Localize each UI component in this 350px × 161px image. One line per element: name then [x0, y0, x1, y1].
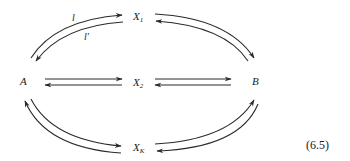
arrow-b-to-x1	[156, 21, 248, 61]
equation-number: (6.5)	[306, 139, 329, 151]
arrow-b-to-xk	[157, 104, 258, 151]
node-a: A	[20, 76, 27, 87]
node-x2: X2	[133, 77, 143, 90]
arrow-xk-to-b	[155, 100, 254, 144]
edge-label-l-prime: l′	[84, 32, 89, 42]
arrow-x1-to-a	[36, 22, 123, 61]
edge-label-l: l	[72, 13, 75, 23]
node-b: B	[252, 76, 259, 87]
arrow-x1-to-b	[155, 14, 254, 58]
arrow-xk-to-a	[25, 101, 121, 153]
reaction-network-diagram: A B X1 X2 XK l l′ (6.5)	[0, 0, 350, 161]
arrows-layer	[0, 0, 350, 161]
node-x1: X1	[133, 11, 143, 24]
node-xk: XK	[133, 142, 144, 155]
arrow-a-to-xk	[31, 99, 121, 146]
